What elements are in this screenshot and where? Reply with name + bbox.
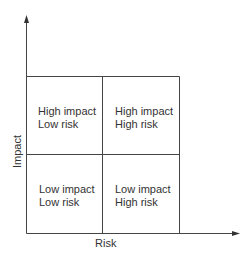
y-axis-label: Impact [11,135,23,168]
quadrant-top-left: High impact Low risk [38,105,96,131]
y-axis-arrow-icon [24,15,29,23]
quadrant-text: Low impact [115,183,171,196]
quadrant-bottom-right: Low impact High risk [115,183,171,209]
quadrant-text: High impact [115,105,173,118]
quadrant-text: High risk [115,118,173,131]
quadrant-text: Low risk [38,118,96,131]
quadrant-top-right: High impact High risk [115,105,173,131]
quadrant-text: High risk [115,196,171,209]
x-axis-label: Risk [95,237,116,249]
quadrant-text: High impact [38,105,96,118]
quadrant-text: Low impact [39,183,95,196]
quadrant-text: Low risk [39,196,95,209]
x-axis-arrow-icon [232,231,240,236]
quadrant-bottom-left: Low impact Low risk [39,183,95,209]
